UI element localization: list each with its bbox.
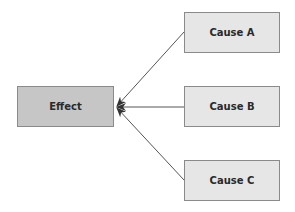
cause-c-label: Cause C xyxy=(210,175,255,186)
edge-cause-a-to-effect xyxy=(117,32,184,106)
cause-b-node: Cause B xyxy=(184,86,280,127)
cause-effect-diagram: Effect Cause A Cause B Cause C xyxy=(0,0,295,212)
edge-cause-c-to-effect xyxy=(117,108,184,180)
cause-b-label: Cause B xyxy=(209,101,254,112)
effect-label: Effect xyxy=(49,101,81,112)
cause-c-node: Cause C xyxy=(184,160,280,201)
cause-a-node: Cause A xyxy=(184,12,280,53)
effect-node: Effect xyxy=(17,86,114,127)
cause-a-label: Cause A xyxy=(209,27,254,38)
